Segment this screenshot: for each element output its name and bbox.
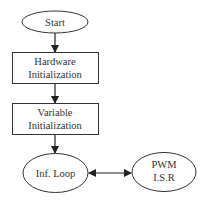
hardware-init-label-line2: Initialization (28, 69, 82, 80)
variable-init-node: Variable Initialization (13, 104, 99, 135)
inf-loop-node: Inf. Loop (23, 154, 88, 193)
variable-init-label-line1: Variable (38, 107, 73, 118)
pwm-isr-label-line2: I.S.R (153, 172, 175, 183)
start-node: Start (22, 11, 88, 33)
hardware-init-node: Hardware Initialization (13, 53, 99, 84)
pwm-isr-label-line1: PWM (151, 159, 177, 170)
variable-init-label-line2: Initialization (28, 120, 82, 131)
hardware-init-label-line1: Hardware (34, 56, 76, 67)
flowchart: Start Hardware Initialization Variable I… (0, 0, 207, 205)
pwm-isr-node: PWM I.S.R (132, 153, 196, 192)
inf-loop-label: Inf. Loop (36, 168, 76, 179)
start-label: Start (45, 17, 65, 28)
